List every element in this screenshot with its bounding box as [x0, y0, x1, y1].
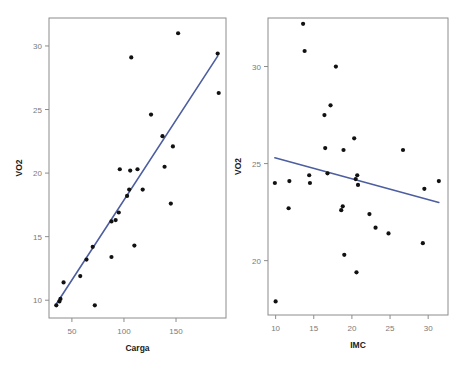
data-point	[176, 31, 180, 35]
data-point	[322, 113, 326, 117]
data-point	[354, 270, 358, 274]
data-point	[132, 243, 136, 247]
data-point	[341, 204, 345, 208]
data-point	[93, 303, 97, 307]
plot-svg-imc: 2025301015202530IMCVO2	[232, 0, 465, 369]
data-point	[437, 179, 441, 183]
y-tick-label: 30	[252, 63, 261, 72]
data-point	[339, 208, 343, 212]
data-point	[386, 231, 390, 235]
data-point	[169, 201, 173, 205]
data-point	[127, 188, 131, 192]
plot-svg-carga: 101520253050100150CargaVO2	[0, 0, 232, 369]
data-point	[274, 299, 278, 303]
data-point	[421, 241, 425, 245]
data-point	[216, 51, 220, 55]
y-tick-label: 20	[33, 169, 42, 178]
data-point	[162, 165, 166, 169]
data-point	[354, 177, 358, 181]
data-point	[308, 181, 312, 185]
data-point	[307, 173, 311, 177]
y-axis-title: VO2	[14, 159, 24, 176]
x-tick-label: 20	[347, 324, 356, 333]
data-point	[160, 134, 164, 138]
data-point	[401, 148, 405, 152]
data-point	[117, 210, 121, 214]
data-point	[342, 253, 346, 257]
data-point	[58, 297, 62, 301]
data-point	[373, 226, 377, 230]
data-point	[114, 218, 118, 222]
data-point	[334, 64, 338, 68]
data-point	[171, 144, 175, 148]
data-point	[367, 212, 371, 216]
data-point	[287, 179, 291, 183]
y-tick-label: 25	[252, 160, 261, 169]
data-point	[129, 55, 133, 59]
data-point	[286, 206, 290, 210]
data-point	[352, 136, 356, 140]
data-point	[54, 303, 58, 307]
data-point	[84, 257, 88, 261]
x-axis-title: Carga	[125, 343, 149, 353]
y-tick-label: 25	[33, 106, 42, 115]
data-point	[217, 91, 221, 95]
data-point	[356, 183, 360, 187]
data-point	[325, 171, 329, 175]
data-point	[91, 245, 95, 249]
y-tick-label: 30	[33, 42, 42, 51]
data-point	[422, 187, 426, 191]
data-point	[303, 49, 307, 53]
y-axis-title: VO2	[233, 158, 243, 175]
data-point	[78, 274, 82, 278]
data-point	[273, 181, 277, 185]
data-point	[141, 188, 145, 192]
x-tick-label: 10	[271, 324, 280, 333]
data-point	[355, 173, 359, 177]
y-tick-label: 20	[252, 257, 261, 266]
x-axis-title: IMC	[350, 340, 366, 350]
chart-panel-imc: 2025301015202530IMCVO2	[232, 0, 465, 369]
x-tick-label: 50	[67, 327, 76, 336]
plot-frame	[268, 18, 448, 315]
x-tick-label: 30	[424, 324, 433, 333]
data-point	[61, 280, 65, 284]
data-point	[109, 255, 113, 259]
data-point	[328, 103, 332, 107]
x-tick-label: 15	[309, 324, 318, 333]
data-point	[125, 194, 129, 198]
data-point	[149, 113, 153, 117]
chart-panel-carga: 101520253050100150CargaVO2	[0, 0, 232, 369]
data-point	[301, 22, 305, 26]
scatter-plot-figure: 101520253050100150CargaVO2 2025301015202…	[0, 0, 465, 369]
y-tick-label: 15	[33, 233, 42, 242]
x-tick-label: 100	[117, 327, 131, 336]
y-tick-label: 10	[33, 296, 42, 305]
x-tick-label: 25	[386, 324, 395, 333]
data-point	[135, 167, 139, 171]
data-point	[128, 168, 132, 172]
data-point	[341, 148, 345, 152]
x-tick-label: 150	[169, 327, 183, 336]
data-point	[323, 146, 327, 150]
data-point	[118, 167, 122, 171]
data-point	[109, 219, 113, 223]
